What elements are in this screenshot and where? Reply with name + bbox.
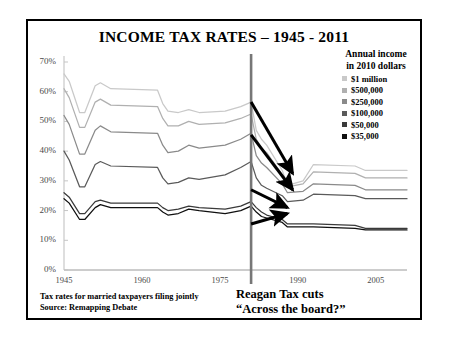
y-tick-label: 30% <box>28 175 56 185</box>
caption-reagan: Reagan Tax cuts “Across the board?” <box>236 287 346 317</box>
caption-left: Tax rates for married taxpayers filing j… <box>40 291 199 313</box>
y-tick-label: 60% <box>28 86 56 96</box>
legend-swatch-icon <box>342 134 347 139</box>
x-tick-label: 1975 <box>200 275 240 285</box>
annotation-arrow-3 <box>251 190 287 208</box>
legend-label: $50,000 <box>351 120 379 130</box>
legend-items: $1 million$500,000$250,000$100,000$50,00… <box>328 74 424 142</box>
legend-label: $250,000 <box>351 97 383 107</box>
legend-item[interactable]: $50,000 <box>328 120 424 130</box>
legend-item[interactable]: $35,000 <box>328 131 424 141</box>
x-tick-label: 1960 <box>122 275 162 285</box>
legend-swatch-icon <box>342 76 347 81</box>
x-tick-label: 1945 <box>44 275 84 285</box>
caption-reagan-line2: “Across the board?” <box>236 302 346 317</box>
legend-title-line2: in 2010 dollars <box>328 61 424 73</box>
legend-swatch-icon <box>342 99 347 104</box>
series-line-5 <box>64 193 407 229</box>
y-tick-label: 40% <box>28 145 56 155</box>
legend-title: Annual income in 2010 dollars <box>328 49 424 72</box>
caption-reagan-line1: Reagan Tax cuts <box>236 287 346 302</box>
caption-left-line1: Tax rates for married taxpayers filing j… <box>40 291 199 302</box>
chart-legend: Annual income in 2010 dollars $1 million… <box>328 49 424 141</box>
legend-item[interactable]: $250,000 <box>328 97 424 107</box>
y-tick-label: 50% <box>28 115 56 125</box>
legend-item[interactable]: $500,000 <box>328 85 424 95</box>
legend-swatch-icon <box>342 88 347 93</box>
caption-left-line2: Source: Remapping Debate <box>40 302 199 313</box>
legend-item[interactable]: $100,000 <box>328 108 424 118</box>
legend-label: $35,000 <box>351 131 379 141</box>
y-tick-label: 70% <box>28 56 56 66</box>
legend-swatch-icon <box>342 111 347 116</box>
legend-item[interactable]: $1 million <box>328 74 424 84</box>
legend-title-line1: Annual income <box>328 49 424 61</box>
y-tick-label: 0% <box>28 264 56 274</box>
x-tick-label: 2005 <box>356 275 396 285</box>
chart-frame: INCOME TAX RATES – 1945 - 2011 0%10%20%3… <box>26 19 422 320</box>
series-line-4 <box>64 151 407 202</box>
legend-label: $100,000 <box>351 108 383 118</box>
y-tick-label: 20% <box>28 205 56 215</box>
legend-swatch-icon <box>342 122 347 127</box>
legend-label: $500,000 <box>351 85 383 95</box>
x-tick-label: 1990 <box>278 275 318 285</box>
legend-label: $1 million <box>351 74 387 84</box>
y-tick-label: 10% <box>28 234 56 244</box>
